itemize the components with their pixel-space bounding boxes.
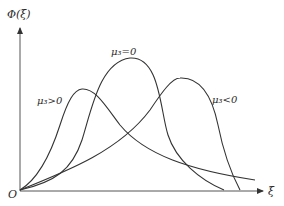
curve-label-negative-skew: μ₃<0 (212, 94, 238, 105)
origin-label: O (8, 188, 17, 201)
curve-zero-skew (20, 58, 224, 190)
curve-label-positive-skew: μ₃>0 (37, 95, 63, 106)
curve-label-zero-skew: μ₃=0 (111, 46, 137, 57)
y-axis-label: Φ(ξ) (7, 8, 31, 21)
skewness-diagram: Φ(ξ) ξ O μ₃=0 μ₃>0 μ₃<0 (0, 0, 284, 206)
x-axis-label: ξ (268, 185, 275, 198)
